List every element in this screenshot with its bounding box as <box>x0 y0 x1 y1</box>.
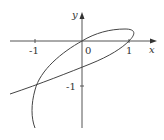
curve-loop-top <box>82 29 134 41</box>
x-axis-arrow-icon <box>150 39 157 44</box>
x-axis-label: x <box>149 44 155 55</box>
plot-svg: -1 0 1 -1 x y <box>0 0 164 140</box>
y-axis-label: y <box>71 9 78 20</box>
parametric-curve-plot: -1 0 1 -1 x y <box>0 0 164 140</box>
x-tick-label-1: 1 <box>126 45 132 56</box>
x-tick-label-minus1: -1 <box>29 45 39 56</box>
origin-label: 0 <box>85 45 91 56</box>
y-axis-arrow-icon <box>80 12 85 19</box>
y-tick-label-minus1: -1 <box>66 81 76 92</box>
